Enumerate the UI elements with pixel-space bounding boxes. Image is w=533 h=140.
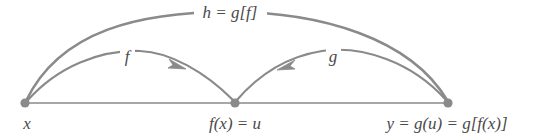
node-dot-x-icon <box>20 98 29 107</box>
arc-label-g: g <box>329 47 338 66</box>
node-dot-u-icon <box>230 98 239 107</box>
node-label-x: x <box>22 114 31 133</box>
composition-svg-canvas: h = g[f] f g x f(x) = u y = g(u) = g[f(x… <box>0 0 533 140</box>
node-label-u: f(x) = u <box>209 114 261 133</box>
arc-label-h: h = g[f] <box>203 3 258 22</box>
node-label-y: y = g(u) = g[f(x)] <box>384 114 507 133</box>
node-dot-y-icon <box>443 98 452 107</box>
function-composition-diagram: h = g[f] f g x f(x) = u y = g(u) = g[f(x… <box>0 0 533 140</box>
arc-h-composition <box>26 12 447 101</box>
